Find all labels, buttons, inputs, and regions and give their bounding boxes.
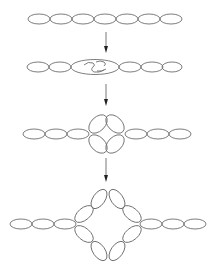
stage-2-folded-center bbox=[27, 60, 182, 75]
stage-3-rosette bbox=[23, 111, 191, 156]
ellipse-chain-diagram bbox=[0, 0, 216, 269]
arrow-down-icon bbox=[104, 158, 108, 182]
arrow-down-icon bbox=[104, 84, 108, 106]
stage-4-diamond-loop bbox=[10, 187, 206, 264]
arrow-down-icon bbox=[104, 32, 108, 53]
stage-1-straight-chain bbox=[28, 14, 182, 24]
